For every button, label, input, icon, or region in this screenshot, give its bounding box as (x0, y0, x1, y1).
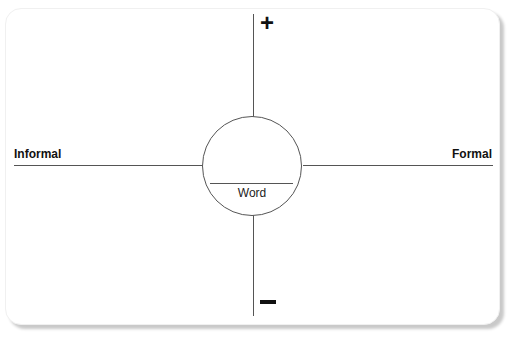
center-word-label: Word (222, 186, 282, 200)
informal-label: Informal (14, 147, 61, 161)
minus-icon (260, 300, 276, 304)
word-underline (210, 183, 293, 184)
formal-label: Formal (452, 147, 492, 161)
horizontal-axis-right (303, 165, 493, 166)
center-circle (202, 116, 302, 216)
plus-icon: + (260, 11, 274, 35)
horizontal-axis-left (14, 165, 202, 166)
